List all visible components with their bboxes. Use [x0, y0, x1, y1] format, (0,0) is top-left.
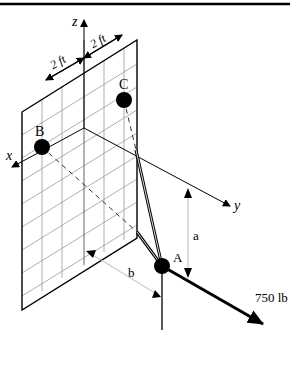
axes: [12, 20, 230, 206]
y-axis-label: y: [232, 198, 241, 213]
point-B: [34, 139, 50, 155]
statics-diagram: z x y 2 ft 2 ft a b 750 lb B: [0, 0, 290, 382]
dimension-a-label: a: [193, 228, 199, 243]
point-C-label: C: [119, 77, 128, 92]
x-axis-label: x: [5, 148, 13, 163]
point-A-label: A: [173, 250, 183, 265]
y-axis: [84, 128, 230, 206]
dimension-a: [184, 188, 192, 278]
cable-AB-hidden: [42, 147, 137, 232]
grid-spacing-label-right: 2 ft: [88, 31, 109, 51]
force-arrow: [162, 266, 263, 324]
point-A: [154, 258, 170, 274]
point-B-label: B: [35, 124, 44, 139]
point-C: [116, 92, 132, 108]
z-axis-label: z: [71, 14, 78, 29]
force-label: 750 lb: [255, 290, 288, 305]
dimension-b-label: b: [128, 265, 135, 280]
dimension-b: [86, 250, 161, 298]
